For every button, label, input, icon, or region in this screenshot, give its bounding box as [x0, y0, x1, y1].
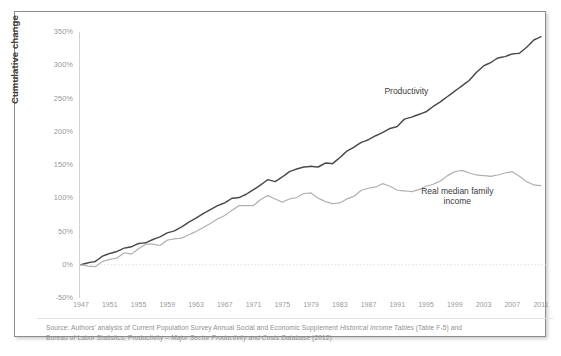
source-note: Source: Authors' analysis of Current Pop…	[46, 323, 551, 343]
source-line2-b: (2012)	[310, 334, 332, 341]
source-divider	[37, 318, 553, 319]
y-tick-label: 50%	[33, 227, 73, 236]
x-tick-label: 2011	[523, 301, 559, 308]
series-label-line1: Productivity	[384, 87, 428, 97]
source-line-1: Source: Authors' analysis of Current Pop…	[46, 323, 551, 333]
y-tick-label: 0%	[33, 260, 73, 269]
y-axis-title: Cumulative change	[9, 0, 20, 104]
chart-frame: Cumulative change 350%300%250%200%150%10…	[14, 11, 546, 337]
series-label-1: Productivity	[384, 87, 428, 97]
y-tick-label: 100%	[33, 193, 73, 202]
source-line1-italic: Historical Income Tables	[340, 324, 414, 331]
y-tick-label: 150%	[33, 160, 73, 169]
plot-area: 350%300%250%200%150%100%50%0%-50% 194719…	[79, 32, 547, 298]
series-line-2	[81, 170, 541, 266]
y-tick-label: 300%	[33, 60, 73, 69]
source-line2-italic: Major Sector Productivity and Costs Data…	[171, 334, 310, 341]
source-line1-b: (Table F-5) and	[414, 324, 462, 331]
series-group	[81, 37, 541, 267]
source-line1-a: Authors' analysis of Current Population …	[71, 324, 340, 331]
series-label-2: Real median familyincome	[421, 187, 493, 207]
series-line-1	[81, 37, 541, 265]
y-tick-label: 350%	[33, 27, 73, 36]
figure-root: Cumulative change 350%300%250%200%150%10…	[0, 0, 561, 356]
source-prefix: Source:	[46, 324, 71, 331]
y-tick-label: 200%	[33, 127, 73, 136]
source-line2-a: Bureau of Labor Statistics, Productivity…	[46, 334, 171, 341]
chart-svg	[79, 32, 547, 298]
series-label-line2: income	[421, 197, 493, 207]
source-line-2: Bureau of Labor Statistics, Productivity…	[46, 333, 551, 343]
y-tick-label: 250%	[33, 94, 73, 103]
